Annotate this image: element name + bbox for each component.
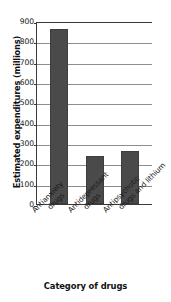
y-axis-tick-mark [34,186,37,187]
bar-chart-figure: Estimated expenditures (millions) 900800… [0,0,171,302]
y-axis-tick-label: 500 [8,99,34,107]
y-axis-tick-label: 300 [8,140,34,148]
y-axis-tick-label: 100 [8,181,34,189]
y-axis-tick-label: 200 [8,160,34,168]
x-axis-category-labels: AntianxietydrugsAntidepressantdrugsAntip… [0,206,171,276]
bar [50,29,68,204]
y-axis-tick-mark [34,23,37,24]
y-axis-tick-labels: 9008007006005004003002001000 [8,16,34,210]
y-axis-tick-label: 600 [8,79,34,87]
y-axis-tick-mark [34,104,37,105]
y-axis-tick-label: 800 [8,38,34,46]
y-axis-tick-mark [34,165,37,166]
y-axis-tick-mark [34,145,37,146]
y-axis-tick-label: 900 [8,18,34,26]
y-axis-tick-label: 700 [8,59,34,67]
x-axis-title: Category of drugs [0,281,171,291]
y-axis-tick-mark [34,84,37,85]
y-axis-tick-mark [34,125,37,126]
y-axis-tick-mark [34,43,37,44]
y-axis-tick-mark [34,64,37,65]
y-axis-tick-label: 400 [8,120,34,128]
